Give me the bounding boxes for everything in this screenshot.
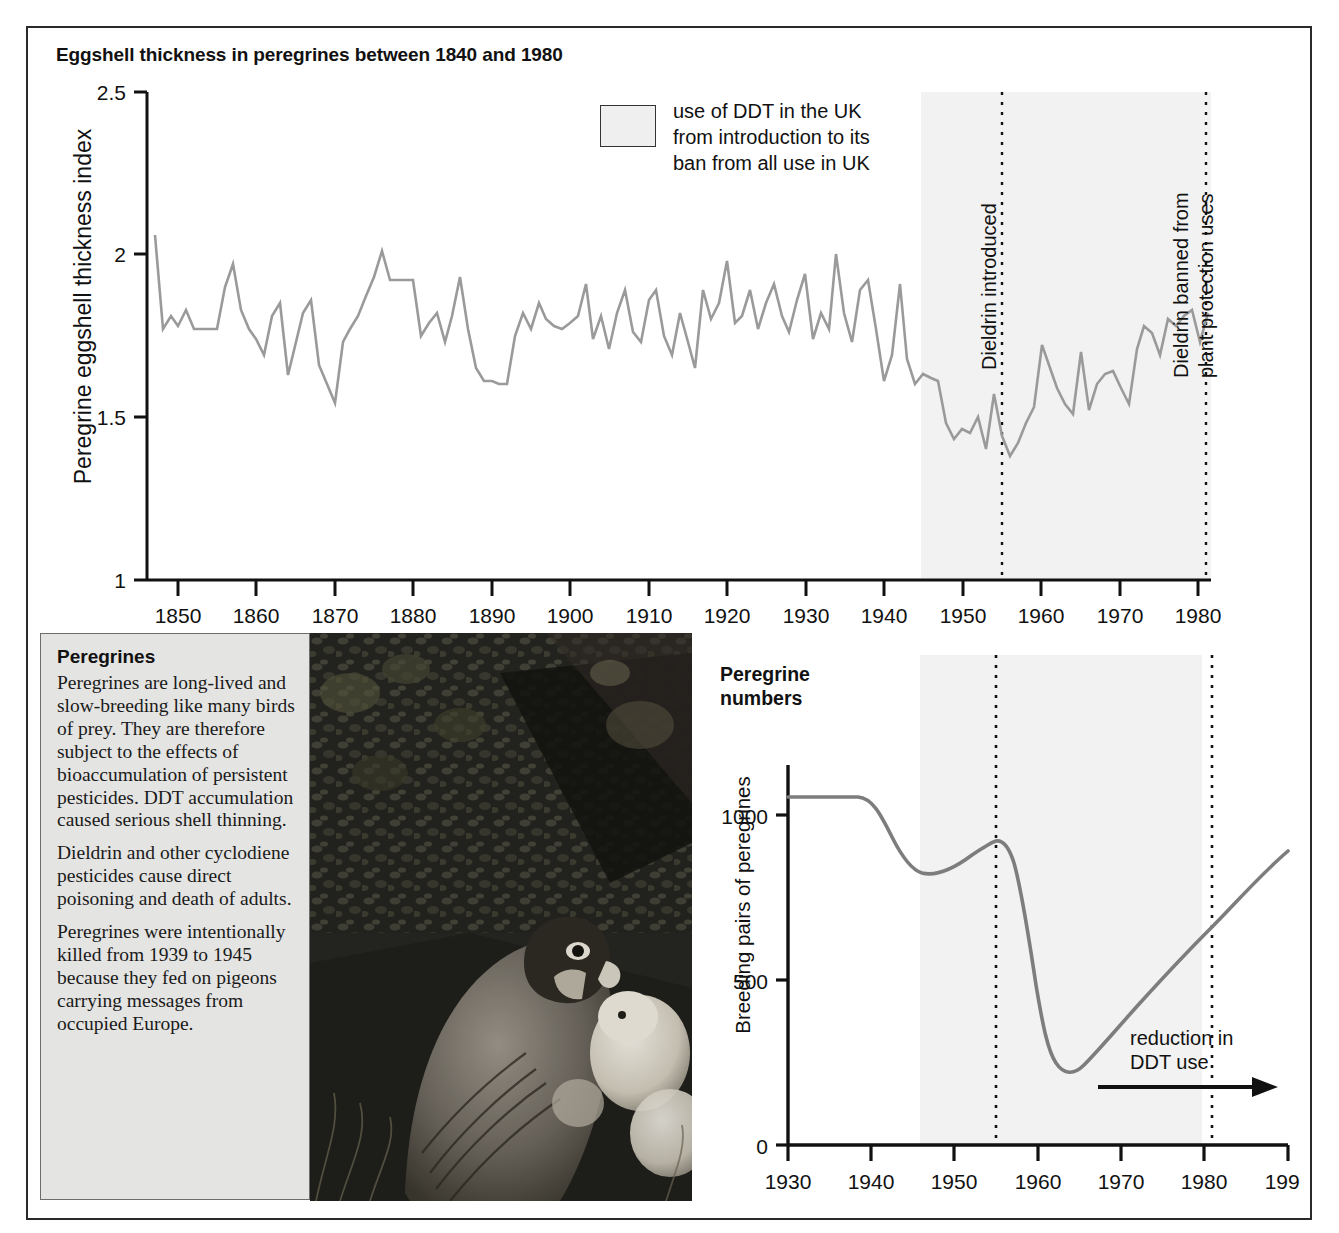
xtick-b-1990: 1990	[1265, 1170, 1300, 1193]
xtick-1910: 1910	[626, 604, 673, 623]
peregrine-x-ticks: 1930 1940 1950 1960 1970 1980 1990	[765, 1145, 1300, 1193]
xtick-b-1970: 1970	[1098, 1170, 1145, 1193]
photo-content	[310, 633, 692, 1201]
ytick-1: 1	[114, 569, 126, 592]
xtick-1850: 1850	[155, 604, 202, 623]
panel-paragraph-1: Peregrines are long-lived and slow-breed…	[57, 672, 295, 832]
ytick-2: 2	[114, 243, 126, 266]
xtick-1930: 1930	[783, 604, 830, 623]
xtick-b-1980: 1980	[1181, 1170, 1228, 1193]
peregrine-nest-photograph	[310, 633, 692, 1201]
reduction-label-line2: DDT use	[1130, 1050, 1320, 1074]
ytick-0: 0	[756, 1135, 768, 1158]
xtick-1920: 1920	[704, 604, 751, 623]
xtick-1940: 1940	[861, 604, 908, 623]
dieldrin-introduced-label: Dieldrin introduced	[978, 203, 1001, 370]
ddt-use-shaded-band	[921, 92, 1211, 580]
peregrine-numbers-title-line1: Peregrine	[720, 663, 810, 687]
eggshell-thickness-chart: Peregrine eggshell thickness index use o…	[30, 78, 1300, 623]
reduction-label-line1: reduction in	[1130, 1026, 1320, 1050]
figure-title: Eggshell thickness in peregrines between…	[56, 44, 563, 66]
panel-heading: Peregrines	[57, 646, 295, 668]
eggshell-plot-svg: 2.5 2 1.5 1 1850 1860 1870 1880 1890 190…	[30, 78, 1300, 623]
xtick-1900: 1900	[547, 604, 594, 623]
xtick-b-1940: 1940	[848, 1170, 895, 1193]
eggshell-y-ticks: 2.5 2 1.5 1	[97, 81, 147, 592]
ytick-1-5: 1.5	[97, 406, 126, 429]
ytick-2-5: 2.5	[97, 81, 126, 104]
peregrine-numbers-plot-svg: 1000 500 0 1930 1940 1950 1960 1970 1980…	[700, 655, 1300, 1203]
xtick-b-1930: 1930	[765, 1170, 812, 1193]
reduction-in-ddt-use-label: reduction in DDT use	[1130, 1026, 1320, 1075]
xtick-1870: 1870	[312, 604, 359, 623]
peregrine-numbers-title-line2: numbers	[720, 687, 810, 711]
xtick-1860: 1860	[233, 604, 280, 623]
xtick-1970: 1970	[1097, 604, 1144, 623]
xtick-1980: 1980	[1175, 604, 1222, 623]
figure-page: Eggshell thickness in peregrines between…	[0, 0, 1339, 1233]
dieldrin-banned-label-line2: plant protection uses	[1195, 193, 1218, 378]
peregrine-numbers-y-axis-label: Breeding pairs of peregrines	[731, 740, 755, 1070]
dieldrin-banned-label-line1: Dieldrin banned from	[1170, 192, 1193, 378]
xtick-b-1960: 1960	[1015, 1170, 1062, 1193]
xtick-1950: 1950	[940, 604, 987, 623]
xtick-b-1950: 1950	[931, 1170, 978, 1193]
peregrines-info-panel: Peregrines Peregrines are long-lived and…	[40, 633, 310, 1200]
eggshell-x-ticks: 1850 1860 1870 1880 1890 1900 1910 1920 …	[155, 580, 1222, 623]
panel-paragraph-2: Dieldrin and other cyclodiene pesticides…	[57, 842, 295, 911]
peregrine-numbers-title: Peregrine numbers	[720, 663, 810, 711]
xtick-1960: 1960	[1018, 604, 1065, 623]
panel-paragraph-3: Peregrines were intentionally killed fro…	[57, 921, 295, 1036]
xtick-1890: 1890	[469, 604, 516, 623]
xtick-1880: 1880	[390, 604, 437, 623]
peregrine-numbers-chart: Peregrine numbers Breeding pairs of pere…	[700, 655, 1300, 1203]
